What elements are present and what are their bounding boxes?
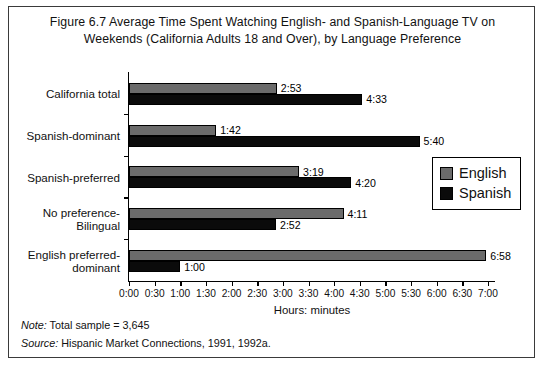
x-axis-tick [385, 281, 386, 286]
x-axis-tick [180, 281, 181, 286]
x-axis-tick [437, 281, 438, 286]
x-axis-tick-label: 2:00 [222, 288, 242, 300]
bar-english [129, 250, 486, 261]
x-axis-tick [155, 281, 156, 286]
legend-swatch-english-icon [440, 167, 453, 180]
bar-value-label: 4:11 [344, 209, 368, 220]
bar-english [129, 83, 277, 94]
figure-source-label: Source: [21, 337, 58, 349]
figure-container: Figure 6.7 Average Time Spent Watching E… [0, 0, 543, 370]
x-axis-title: Hours: minutes [129, 304, 495, 316]
bar-value-label: 4:33 [362, 94, 387, 105]
x-axis-tick-label: 5:30 [401, 288, 421, 300]
bar-value-label: 1:42 [216, 125, 241, 136]
x-axis-tick-label: 1:30 [196, 288, 216, 300]
x-axis-tick-label: 6:30 [452, 288, 472, 300]
figure-note-label: Note: [21, 319, 47, 331]
bar-spanish [129, 177, 351, 188]
category-label: No preference-Bilingual [43, 206, 120, 233]
x-axis-tick-label: 0:30 [145, 288, 165, 300]
figure-title: Figure 6.7 Average Time Spent Watching E… [40, 14, 505, 48]
bar-spanish [129, 219, 276, 230]
figure-source-text: Hispanic Market Connections, 1991, 1992a… [58, 337, 270, 349]
x-axis-tick [257, 281, 258, 286]
bar-english [129, 166, 299, 177]
legend-label-english: English [459, 165, 507, 181]
bar-value-label: 4:20 [351, 178, 376, 189]
bar-value-label: 5:40 [420, 136, 445, 147]
figure-note: Note: Total sample = 3,645 [21, 319, 150, 332]
category-label: Spanish-preferred [27, 171, 120, 185]
category-label-line: Spanish-preferred [27, 171, 120, 185]
category-label-line: dominant [28, 261, 120, 275]
category-label: California total [46, 87, 120, 101]
x-axis-tick-label: 7:00 [478, 288, 498, 300]
category-label: English preferred-dominant [28, 248, 120, 275]
x-axis-tick [232, 281, 233, 286]
x-axis-tick-label: 4:30 [350, 288, 370, 300]
legend-item-spanish: Spanish [440, 183, 511, 203]
x-axis-tick-label: 6:00 [427, 288, 447, 300]
x-axis-tick-label: 2:30 [247, 288, 267, 300]
x-axis-tick [488, 281, 489, 286]
bar-group: California total2:534:33 [129, 72, 495, 114]
category-label-line: English preferred- [28, 248, 120, 262]
x-axis-tick [360, 281, 361, 286]
category-label-line: California total [46, 87, 120, 101]
y-axis-tick [124, 197, 129, 198]
bar-value-label: 1:00 [180, 262, 205, 273]
chart-legend: English Spanish [432, 157, 521, 210]
legend-swatch-spanish-icon [440, 187, 453, 200]
y-axis-tick [124, 239, 129, 240]
category-label-line: Spanish-dominant [27, 129, 120, 143]
bar-group: English preferred-dominant6:581:00 [129, 239, 495, 281]
bar-spanish [129, 261, 180, 272]
figure-note-text: Total sample = 3,645 [47, 319, 150, 331]
bar-value-label: 3:19 [299, 167, 324, 178]
bar-group: Spanish-dominant1:425:40 [129, 114, 495, 156]
figure-source: Source: Hispanic Market Connections, 199… [21, 337, 271, 350]
x-axis-line [128, 281, 495, 282]
bar-spanish [129, 94, 362, 105]
x-axis-tick [411, 281, 412, 286]
x-axis-tick-label: 4:00 [324, 288, 344, 300]
bar-value-label: 2:53 [277, 83, 302, 94]
x-axis-tick-label: 1:00 [170, 288, 190, 300]
y-axis-tick [124, 156, 129, 157]
x-axis-tick [283, 281, 284, 286]
bar-value-label: 6:58 [486, 251, 511, 262]
x-axis-tick [129, 281, 130, 286]
x-axis-tick-label: 3:30 [299, 288, 319, 300]
bar-english [129, 208, 344, 219]
x-axis-tick [462, 281, 463, 286]
bar-spanish [129, 136, 420, 147]
category-label-line: Bilingual [43, 219, 120, 233]
x-axis-tick [334, 281, 335, 286]
x-axis-tick [309, 281, 310, 286]
x-axis-tick-label: 3:00 [273, 288, 293, 300]
legend-item-english: English [440, 163, 511, 183]
y-axis-tick [124, 114, 129, 115]
category-label-line: No preference- [43, 206, 120, 220]
legend-label-spanish: Spanish [459, 185, 511, 201]
bar-english [129, 125, 216, 136]
x-axis-tick-label: 5:00 [376, 288, 396, 300]
x-axis-tick-label: 0:00 [119, 288, 139, 300]
bar-value-label: 2:52 [276, 220, 301, 231]
category-label: Spanish-dominant [27, 129, 120, 143]
x-axis-tick [206, 281, 207, 286]
